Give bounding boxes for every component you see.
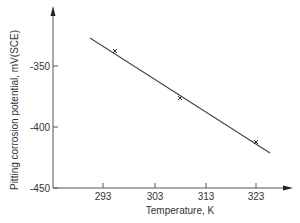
data-points xyxy=(113,49,258,144)
y-tick-label: -350 xyxy=(30,61,50,72)
y-axis-label: Pitting corrosion potential, mV(SCE) xyxy=(9,30,20,190)
data-point-marker-icon xyxy=(254,140,258,144)
x-ticks: 293 303 313 323 xyxy=(95,183,265,202)
y-tick-label: -400 xyxy=(30,122,50,133)
x-tick-label: 303 xyxy=(147,191,164,202)
y-ticks: -350 -400 -450 xyxy=(30,61,58,194)
y-axis-arrow-icon xyxy=(51,6,56,16)
x-tick-label: 293 xyxy=(95,191,112,202)
data-point-marker-icon xyxy=(178,96,182,100)
x-tick-label: 323 xyxy=(248,191,265,202)
data-point-marker-icon xyxy=(113,49,117,53)
x-tick-label: 313 xyxy=(198,191,215,202)
x-axis-label: Temperature, K xyxy=(146,205,215,216)
y-tick-label: -450 xyxy=(30,183,50,194)
fit-line xyxy=(90,38,270,153)
chart: -350 -400 -450 293 303 313 323 Temperatu… xyxy=(0,0,300,223)
x-axis-arrow-icon xyxy=(283,186,293,191)
